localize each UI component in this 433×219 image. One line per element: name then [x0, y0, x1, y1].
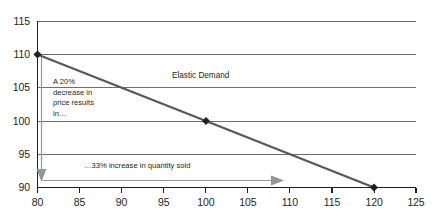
x-tick-label-105: 105 — [233, 196, 263, 208]
x-tick-label-120: 120 — [359, 196, 389, 208]
x-tick-label-85: 85 — [65, 196, 95, 208]
y-tick-label-100: 100 — [2, 115, 30, 127]
x-tick-label-125: 125 — [401, 196, 431, 208]
x-tick-label-95: 95 — [149, 196, 179, 208]
elastic-demand-label: Elastic Demand — [172, 71, 229, 82]
data-point-marker-120-90 — [370, 184, 378, 192]
x-tick-label-110: 110 — [275, 196, 305, 208]
y-tick-label-110: 110 — [2, 48, 30, 60]
quantity-increase-annotation: …33% increase in quantity sold — [84, 161, 190, 172]
x-tick-label-90: 90 — [107, 196, 137, 208]
price-decrease-line-2: decrease in — [53, 88, 94, 99]
data-point-marker-100-100 — [202, 117, 210, 125]
price-decrease-line-3: price results — [53, 98, 94, 109]
quantity-rise-arrow — [43, 176, 284, 186]
y-tick-label-115: 115 — [2, 15, 30, 27]
chart-container: 115 110 105 100 95 90 80 85 90 95 100 10… — [0, 0, 433, 219]
x-tick-label-80: 80 — [23, 196, 53, 208]
price-decrease-line-4: in… — [53, 109, 94, 120]
y-tick-label-105: 105 — [2, 81, 30, 93]
x-tick-label-115: 115 — [317, 196, 347, 208]
x-axis-ticks — [38, 188, 417, 193]
price-decrease-annotation: A 20% decrease in price results in… — [53, 77, 94, 119]
y-tick-label-95: 95 — [2, 148, 30, 160]
data-point-marker-80-110 — [33, 51, 41, 59]
x-tick-label-100: 100 — [191, 196, 221, 208]
y-tick-label-90: 90 — [2, 181, 30, 193]
gridlines — [38, 22, 417, 155]
price-decrease-line-1: A 20% — [53, 77, 94, 88]
